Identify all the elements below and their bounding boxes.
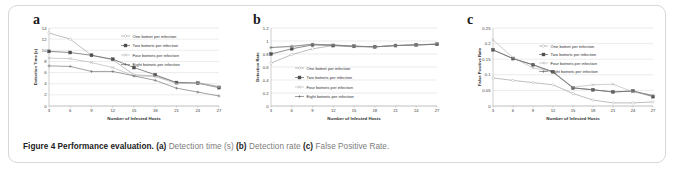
x-axis-tick-label: 18	[372, 108, 377, 113]
figure-container: a 02468101214369121518212427Number of In…	[8, 5, 666, 163]
plot-b-svg: 00.20.40.60.811.2369121518212427Number o…	[231, 6, 453, 134]
data-series	[48, 64, 221, 97]
legend-label: Two botnets per infection	[133, 43, 179, 48]
x-axis-tick-label: 15	[571, 108, 576, 113]
y-axis-title: Detection Time (s)	[33, 48, 38, 85]
x-axis-tick-label: 9	[311, 108, 314, 113]
x-axis-tick-label: 6	[512, 108, 515, 113]
x-axis-tick-label: 12	[551, 108, 556, 113]
x-axis-tick-label: 6	[291, 108, 294, 113]
y-axis-tick-label: 1	[266, 39, 269, 44]
x-axis-tick-label: 27	[217, 108, 222, 113]
x-axis-tick-label: 3	[48, 108, 51, 113]
x-axis-tick-label: 21	[393, 108, 398, 113]
x-axis-tick-label: 18	[591, 108, 596, 113]
x-axis-tick-label: 12	[331, 108, 336, 113]
x-axis-title: Number of Infected Hosts	[546, 116, 600, 121]
y-axis-tick-label: 0.15	[482, 57, 491, 62]
x-axis-tick-label: 9	[532, 108, 535, 113]
legend-label: Eight botnets per infection	[133, 62, 181, 67]
y-axis-tick-label: 12	[42, 37, 47, 42]
y-axis-tick-label: 0.4	[263, 78, 269, 83]
figure-caption: Figure 4 Performance evaluation. (a) Det…	[23, 134, 663, 160]
x-axis-tick-label: 18	[153, 108, 158, 113]
x-axis-tick-label: 6	[69, 108, 72, 113]
legend-label: One botnet per infection	[133, 34, 177, 39]
x-axis-title: Number of Infected Hosts	[107, 116, 161, 121]
y-axis-title: Detection Rate	[255, 52, 260, 82]
caption-b-label: (b)	[236, 142, 247, 151]
legend-label: Eight botnets per infection	[551, 69, 599, 74]
chart-panel-a: a 02468101214369121518212427Number of In…	[13, 6, 235, 134]
legend-label: Four botnets per infection	[551, 61, 598, 66]
x-axis-tick-label: 3	[270, 108, 273, 113]
legend-label: One botnet per infection	[551, 44, 595, 49]
y-axis-tick-label: 0.2	[485, 41, 491, 46]
x-axis-tick-label: 24	[631, 108, 636, 113]
x-axis-tick-label: 15	[132, 108, 137, 113]
plot-b: 00.20.40.60.811.2369121518212427Number o…	[231, 6, 453, 134]
caption-c-text: False Positive Rate.	[315, 142, 389, 151]
y-axis-title: False Positive Rate	[477, 47, 482, 86]
caption-a-text: Detection time (s)	[169, 142, 234, 151]
legend-label: Eight botnets per infection	[307, 94, 355, 99]
caption-title: Figure 4 Performance evaluation.	[23, 142, 154, 151]
y-axis-tick-label: 8	[44, 59, 47, 64]
x-axis-tick-label: 27	[435, 108, 440, 113]
x-axis-tick-label: 27	[651, 108, 656, 113]
gridlines	[271, 28, 437, 106]
y-axis-tick-label: 0.1	[485, 72, 491, 77]
chart-panel-c: c 00.050.10.150.20.25369121518212427Numb…	[453, 6, 667, 134]
data-series	[48, 32, 221, 88]
y-axis-tick-label: 0	[44, 104, 47, 109]
y-axis-tick-label: 6	[44, 70, 47, 75]
y-axis-tick-label: 1.2	[263, 26, 269, 31]
x-axis-title: Number of Infected Hosts	[327, 116, 381, 121]
legend: One botnet per infectionTwo botnets per …	[295, 66, 355, 100]
y-axis-tick-label: 0.8	[263, 52, 269, 57]
x-axis-tick-label: 9	[90, 108, 93, 113]
caption-b-text: Detection rate	[249, 142, 301, 151]
y-axis-tick-label: 10	[42, 48, 47, 53]
plot-a: 02468101214369121518212427Number of Infe…	[13, 6, 235, 134]
x-axis-tick-label: 12	[110, 108, 115, 113]
x-axis-tick-label: 24	[195, 108, 200, 113]
plot-c: 00.050.10.150.20.25369121518212427Number…	[453, 6, 667, 134]
chart-panel-b: b 00.20.40.60.811.2369121518212427Number…	[231, 6, 453, 134]
legend-label: Four botnets per infection	[307, 85, 354, 90]
legend-label: One botnet per infection	[307, 66, 351, 71]
x-axis-tick-label: 21	[611, 108, 616, 113]
y-axis-tick-label: 14	[42, 26, 47, 31]
plot-c-svg: 00.050.10.150.20.25369121518212427Number…	[453, 6, 667, 134]
x-axis-tick-label: 21	[174, 108, 179, 113]
legend-label: Four botnets per infection	[133, 53, 180, 58]
caption-a-label: (a)	[156, 142, 166, 151]
x-axis-tick-label: 15	[352, 108, 357, 113]
x-axis-tick-label: 3	[492, 108, 495, 113]
legend-label: Two botnets per infection	[551, 52, 597, 57]
legend-label: Two botnets per infection	[307, 75, 353, 80]
y-axis-tick-label: 0.05	[482, 88, 491, 93]
y-axis-tick-label: 0	[488, 104, 491, 109]
plot-a-svg: 02468101214369121518212427Number of Infe…	[13, 6, 235, 134]
y-axis-tick-label: 2	[44, 92, 47, 97]
y-axis-tick-label: 0.2	[263, 91, 269, 96]
charts-row: a 02468101214369121518212427Number of In…	[9, 6, 667, 134]
y-axis-tick-label: 4	[44, 81, 47, 86]
caption-c-label: (c)	[303, 142, 313, 151]
y-axis-tick-label: 0.6	[263, 65, 269, 70]
x-axis-tick-label: 24	[414, 108, 419, 113]
y-axis-tick-label: 0	[266, 104, 269, 109]
legend: One botnet per infectionTwo botnets per …	[539, 44, 599, 75]
y-axis-tick-label: 0.25	[482, 26, 491, 31]
